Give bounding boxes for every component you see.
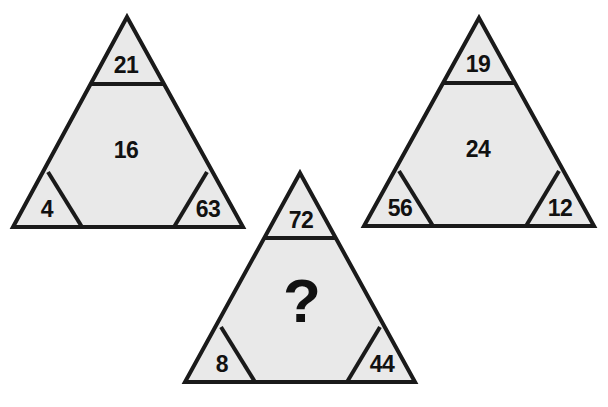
puzzle-figure: 21 16 4 63 19 24 56 12 72 ? 8 44: [0, 0, 608, 407]
puzzle-stage: 21 16 4 63 19 24 56 12 72 ? 8 44: [0, 0, 608, 407]
triangle-right-bottom-right-value: 12: [548, 195, 573, 221]
triangle-left: 21 16 4 63: [13, 17, 243, 227]
triangle-left-top-value: 21: [114, 52, 139, 78]
triangle-left-bottom-left-value: 4: [41, 196, 54, 222]
triangle-left-bottom-right-value: 63: [196, 196, 221, 222]
triangle-right: 19 24 56 12: [364, 18, 594, 226]
triangle-bottom-middle-unknown: ?: [283, 266, 321, 335]
triangle-right-top-value: 19: [466, 51, 491, 77]
triangle-right-bottom-left-value: 56: [388, 195, 413, 221]
triangle-bottom-top-value: 72: [289, 207, 314, 233]
triangle-bottom-bottom-right-value: 44: [370, 351, 395, 377]
triangle-right-middle-value: 24: [466, 136, 491, 162]
triangle-left-middle-value: 16: [114, 137, 139, 163]
triangle-bottom-bottom-left-value: 8: [216, 351, 229, 377]
